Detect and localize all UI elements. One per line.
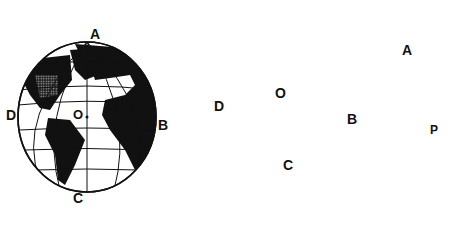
globe-label-o: O (73, 108, 83, 121)
globe (18, 42, 160, 192)
map-label-o: O (275, 86, 286, 100)
map-label-c: C (283, 158, 293, 172)
map-label-b: B (347, 112, 357, 126)
globe-label-c: C (73, 191, 83, 205)
map-label-d: D (214, 99, 224, 113)
map-label-a: A (402, 43, 412, 57)
globe-label-b: B (158, 118, 168, 132)
figure-canvas (0, 0, 458, 227)
globe-label-d: D (6, 108, 16, 122)
globe-label-a: A (90, 27, 100, 41)
map-label-p: P (430, 124, 438, 136)
